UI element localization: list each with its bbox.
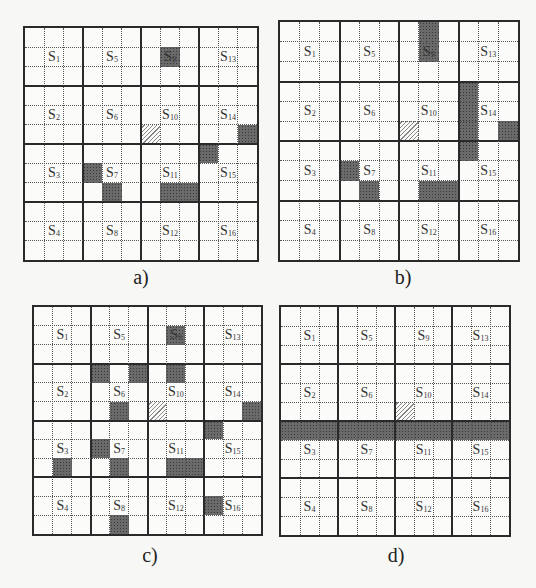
obstacle-cell [199, 144, 218, 163]
obstacle-cell [91, 439, 110, 458]
obstacle-cell [340, 161, 360, 181]
obstacle-cell [204, 421, 223, 440]
sector-label: S6 [106, 107, 118, 123]
sector-divider [34, 476, 261, 478]
grid-panel-d: S1S2S3S4S5S6S7S8S9S10S11S12S13S14S15S16 [279, 305, 511, 537]
panel-caption-d: d) [388, 544, 405, 567]
obstacle-cell [414, 421, 433, 440]
obstacle-cell [91, 364, 110, 383]
sector-label: S14 [225, 384, 241, 400]
sector-label: S3 [304, 442, 316, 458]
panel-caption-a: a) [133, 266, 149, 289]
sector-label: S10 [168, 384, 184, 400]
sector-label: S5 [361, 328, 373, 344]
cell-divider [418, 22, 419, 260]
grid-panel-a: S1S2S3S4S5S6S7S8S9S10S11S12S13S14S15S16 [23, 26, 259, 262]
cell-divider [185, 307, 186, 534]
sector-divider [280, 140, 518, 142]
obstacle-cell [83, 163, 102, 182]
target-cell [141, 125, 160, 144]
cell-divider [34, 439, 261, 440]
cell-divider [280, 160, 518, 161]
obstacle-cell [319, 421, 338, 440]
sector-label: S7 [106, 165, 118, 181]
sector-label: S3 [304, 163, 316, 179]
cell-divider [490, 307, 491, 535]
sector-label: S5 [113, 327, 125, 343]
cell-divider [280, 220, 518, 221]
sector-label: S8 [363, 222, 375, 238]
sector-label: S8 [361, 499, 373, 515]
obstacle-cell [166, 458, 185, 477]
sector-label: S11 [416, 442, 432, 458]
sector-label: S12 [421, 222, 437, 238]
sector-label: S5 [106, 49, 118, 65]
sector-label: S7 [361, 442, 373, 458]
sector-label: S1 [56, 327, 68, 343]
sector-divider [25, 201, 257, 203]
obstacle-cell [166, 364, 185, 383]
cell-divider [179, 28, 180, 260]
sector-label: S2 [304, 103, 316, 119]
cell-divider [471, 307, 472, 535]
obstacle-cell [471, 421, 490, 440]
sector-label: S10 [421, 103, 437, 119]
obstacle-cell [204, 496, 223, 515]
obstacle-cell [452, 421, 471, 440]
cell-divider [223, 307, 224, 534]
obstacle-cell [300, 421, 319, 440]
sector-divider [451, 307, 453, 535]
cell-divider [34, 515, 261, 516]
obstacle-cell [439, 181, 459, 201]
sector-divider [280, 200, 518, 202]
sector-label: S4 [56, 498, 68, 514]
obstacle-cell [185, 458, 204, 477]
cell-divider [25, 240, 257, 241]
sector-label: S1 [48, 49, 60, 65]
cell-divider [25, 163, 257, 164]
panel-caption-b: b) [395, 266, 412, 289]
obstacle-cell [180, 183, 199, 202]
sector-label: S13 [480, 44, 496, 60]
obstacle-cell [433, 421, 452, 440]
target-cell [148, 402, 167, 421]
cell-divider [281, 459, 509, 460]
sector-divider [203, 307, 205, 534]
sector-label: S6 [363, 103, 375, 119]
cell-divider [237, 28, 238, 260]
sector-label: S12 [162, 223, 178, 239]
cell-divider [34, 458, 261, 459]
obstacle-cell [357, 421, 376, 440]
sector-label: S2 [48, 107, 60, 123]
sector-label: S14 [473, 385, 489, 401]
sector-label: S7 [113, 441, 125, 457]
obstacle-cell [242, 402, 261, 421]
sector-divider [281, 477, 509, 479]
obstacle-cell [238, 125, 257, 144]
sector-label: S12 [168, 498, 184, 514]
cell-divider [34, 496, 261, 497]
obstacle-cell [110, 515, 129, 534]
sector-label: S10 [162, 107, 178, 123]
sector-label: S13 [225, 327, 241, 343]
obstacle-cell [160, 183, 179, 202]
cell-divider [242, 307, 243, 534]
obstacle-cell [459, 121, 479, 141]
cell-divider [498, 22, 499, 260]
cell-divider [166, 307, 167, 534]
sector-label: S10 [416, 385, 432, 401]
sector-label: S13 [220, 49, 236, 65]
sector-label: S4 [304, 222, 316, 238]
obstacle-cell [281, 421, 300, 440]
sector-label: S16 [473, 499, 489, 515]
sector-label: S12 [416, 499, 432, 515]
sector-label: S15 [220, 165, 236, 181]
sector-label: S4 [304, 499, 316, 515]
obstacle-cell [53, 458, 72, 477]
sector-label: S6 [113, 384, 125, 400]
sector-label: S11 [168, 441, 184, 457]
cell-divider [281, 440, 509, 441]
sector-label: S15 [225, 441, 241, 457]
obstacle-cell [459, 101, 479, 121]
obstacle-cell [338, 421, 357, 440]
